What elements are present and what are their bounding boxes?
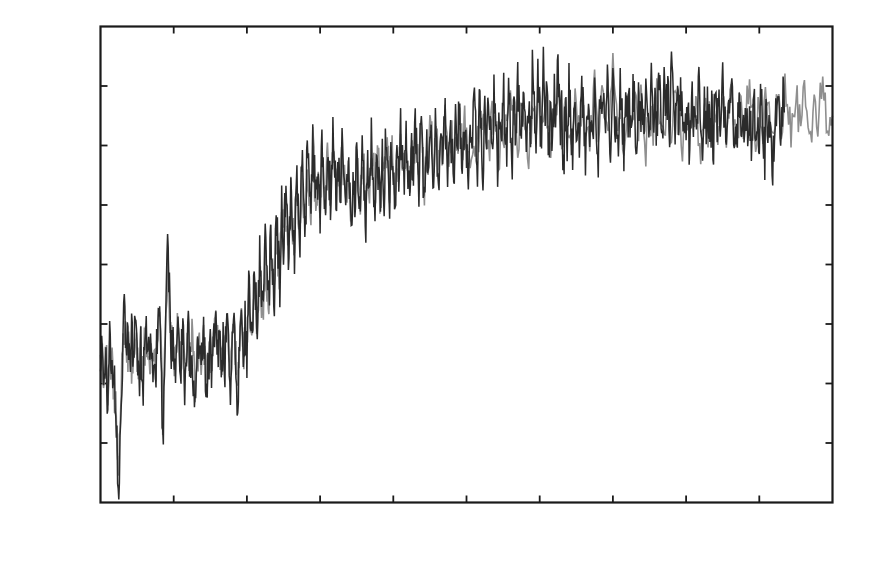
plot-background [0, 0, 876, 580]
plot-area [0, 0, 876, 580]
figure-canvas: Percent Correct Cycles 0.20.30.40.50.60.… [0, 0, 876, 580]
